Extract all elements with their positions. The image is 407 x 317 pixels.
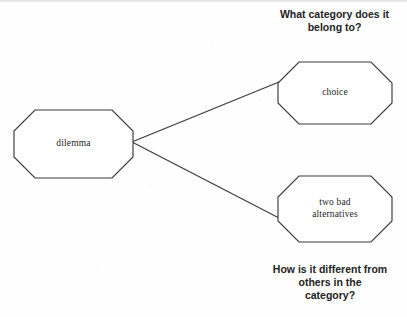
caption-difference-question: How is it different from others in the c… (255, 263, 405, 302)
connector-dilemma-to-two-bad-alternatives (133, 143, 279, 219)
connector-dilemma-to-choice (133, 82, 279, 142)
caption-category-question: What category does it belong to? (262, 8, 407, 34)
node-choice-label: choice (278, 87, 392, 99)
diagram-canvas: dilemma choice two bad alternatives What… (0, 0, 407, 317)
node-two-bad-alternatives-label: two bad alternatives (278, 197, 392, 220)
node-dilemma-label: dilemma (14, 138, 133, 150)
